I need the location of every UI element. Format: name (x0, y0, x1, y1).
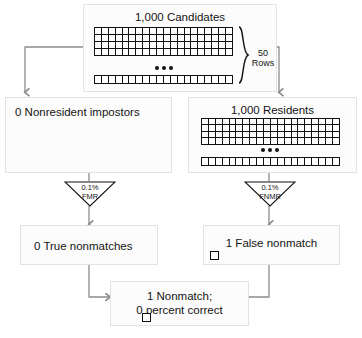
grid-cell (150, 49, 157, 56)
grid-cell (157, 28, 164, 35)
grid-cell (205, 35, 212, 42)
total-nonmatch-box: 1 Nonmatch; 0 percent correct (110, 281, 249, 326)
grid-cell (164, 42, 171, 49)
grid-cell (264, 158, 271, 166)
residents-tail-row (201, 157, 340, 166)
grid-cell (136, 35, 143, 42)
grid-cell (178, 35, 185, 42)
fmr-label: 0.1% FMR (64, 184, 116, 201)
grid-cell (129, 35, 136, 42)
grid-cell (129, 42, 136, 49)
grid-cell (95, 35, 102, 42)
grid-cell (95, 42, 102, 49)
grid-cell (333, 138, 340, 144)
grid-cell (95, 76, 102, 84)
grid-cell (185, 42, 192, 49)
grid-cell (109, 49, 116, 56)
grid-cell (116, 28, 123, 35)
grid-cell (150, 42, 157, 49)
connector-candidates-to-residents (277, 47, 279, 92)
grid-cell (157, 42, 164, 49)
grid-cell (257, 158, 264, 166)
grid-cell (305, 158, 312, 166)
false-nonmatch-square-marker (210, 251, 219, 260)
grid-cell (143, 28, 150, 35)
grid-cell (219, 49, 226, 56)
grid-cell (205, 76, 212, 84)
grid-cell (223, 158, 230, 166)
grid-cell (116, 76, 123, 84)
grid-cell (109, 35, 116, 42)
grid-cell (129, 28, 136, 35)
grid-cell (312, 138, 319, 144)
grid-cell (271, 158, 278, 166)
connector-true-nonmatches-to-total (89, 265, 110, 297)
candidates-rows-brace (238, 26, 250, 84)
grid-cell (129, 76, 136, 84)
grid-cell (164, 28, 171, 35)
grid-cell (298, 158, 305, 166)
total-nonmatch-title: 1 Nonmatch; 0 percent correct (111, 289, 248, 317)
grid-cell (116, 49, 123, 56)
grid-cell (191, 42, 198, 49)
residents-grid (201, 118, 340, 145)
candidates-grid (94, 27, 233, 56)
grid-cell (292, 158, 299, 166)
candidates-grid-rows (94, 27, 233, 56)
grid-cell (185, 35, 192, 42)
grid-cell (185, 28, 192, 35)
grid-cell (164, 35, 171, 42)
grid-cell (143, 49, 150, 56)
grid-cell (150, 28, 157, 35)
true-nonmatches-box: 0 True nonmatches (20, 225, 158, 265)
fmr-metric: FMR (64, 193, 116, 202)
grid-cell (278, 158, 285, 166)
grid-cell (95, 49, 102, 56)
rows-count: 50 (250, 48, 276, 58)
grid-row (95, 35, 233, 42)
fnmr-metric: FNMR (244, 193, 296, 202)
grid-cell (123, 49, 130, 56)
grid-cell (136, 28, 143, 35)
grid-cell (171, 76, 178, 84)
grid-cell (198, 35, 205, 42)
fnmr-label: 0.1% FNMR (244, 184, 296, 201)
grid-cell (178, 42, 185, 49)
grid-cell (319, 158, 326, 166)
residents-title: 1,000 Residents (189, 104, 356, 117)
grid-cell (250, 158, 257, 166)
grid-cell (226, 42, 233, 49)
grid-cell (219, 76, 226, 84)
grid-cell (326, 158, 333, 166)
grid-cell (150, 35, 157, 42)
grid-cell (236, 138, 243, 144)
grid-cell (326, 138, 333, 144)
grid-cell (219, 35, 226, 42)
grid-cell (212, 28, 219, 35)
grid-cell (243, 158, 250, 166)
grid-cell (264, 138, 271, 144)
grid-cell (319, 138, 326, 144)
connector-false-nonmatch-to-total (249, 265, 269, 297)
grid-cell (212, 76, 219, 84)
grid-row (95, 42, 233, 49)
grid-cell (198, 49, 205, 56)
grid-cell (292, 138, 299, 144)
total-nonmatch-line2: 0 percent correct (111, 303, 248, 317)
nonresident-impostors-box: 0 Nonresident impostors (5, 97, 172, 173)
grid-cell (123, 28, 130, 35)
grid-cell (198, 76, 205, 84)
grid-cell (143, 76, 150, 84)
grid-cell (285, 138, 292, 144)
grid-cell (157, 76, 164, 84)
grid-cell (226, 28, 233, 35)
grid-cell (236, 158, 243, 166)
grid-cell (129, 49, 136, 56)
grid-cell (198, 28, 205, 35)
grid-cell (185, 49, 192, 56)
nonresident-impostors-title: 0 Nonresident impostors (15, 106, 140, 119)
grid-cell (191, 35, 198, 42)
residents-ellipsis (261, 148, 279, 152)
grid-cell (212, 35, 219, 42)
grid-cell (191, 49, 198, 56)
